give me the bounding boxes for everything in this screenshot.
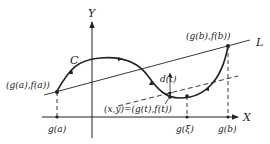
y-axis-label: Y: [88, 7, 97, 20]
tangent-dashed-line: [118, 76, 238, 106]
x-axis-label: X: [242, 111, 252, 124]
moving-point-label: (x,y)=(g(t),f(t)): [104, 104, 172, 114]
distance-label: d(t): [160, 74, 177, 84]
curve-c: [57, 46, 228, 98]
start-point-label: (g(a),f(a)): [6, 80, 50, 90]
leader-moving-point: [165, 97, 170, 104]
line-label: L: [255, 36, 263, 49]
tick-gxi: [185, 115, 188, 118]
tick-gb: [226, 115, 229, 118]
tick-label-ga: g(a): [48, 124, 67, 134]
tick-label-gxi: g(ξ): [176, 124, 194, 134]
tick-label-gb: g(b): [218, 124, 237, 134]
curve-label: C: [70, 54, 79, 67]
curve-arrow-2: [118, 57, 123, 61]
mean-value-diagram: Y X C L (g(a),f(a)) (g(b),f(b)) (x,y)=(g…: [0, 0, 270, 144]
end-point-label: (g(b),f(b)): [186, 31, 231, 41]
tick-ga: [55, 115, 58, 118]
